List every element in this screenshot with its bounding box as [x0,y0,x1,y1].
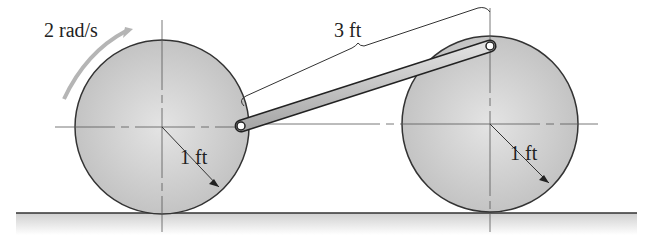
left-radius-label: 1 ft [180,146,208,168]
angular-velocity-arrowhead [123,27,133,38]
mechanism-diagram: 2 rad/s 3 ft 1 ft 1 ft [0,0,659,251]
ground [16,213,637,235]
left-wheel [55,20,252,232]
link-length-label: 3 ft [334,19,362,41]
right-radius-label: 1 ft [510,142,538,164]
right-wheel [240,8,598,232]
angular-velocity-label: 2 rad/s [44,19,98,41]
right-pin [486,42,494,50]
left-pin [237,122,245,130]
